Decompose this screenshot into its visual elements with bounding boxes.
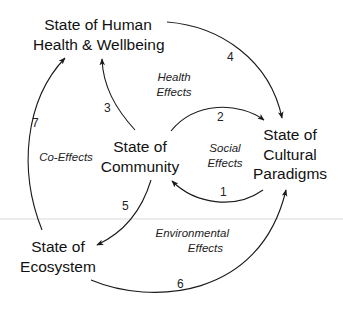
label-health-effects: Health Effects xyxy=(150,70,198,100)
arrow-3 xyxy=(102,59,135,130)
causal-loop-diagram: State of Human Health & Wellbeing State … xyxy=(0,0,343,313)
edge-number-5: 5 xyxy=(122,199,129,213)
edge-number-7: 7 xyxy=(32,116,39,130)
edge-number-6: 6 xyxy=(177,277,184,291)
label-social-effects: Social Effects xyxy=(202,141,248,171)
label-co-effects: Co-Effects xyxy=(36,150,96,165)
edge-number-2: 2 xyxy=(217,110,224,124)
arrow-7 xyxy=(28,58,65,230)
node-human-health: State of Human Health & Wellbeing xyxy=(33,15,163,54)
node-community: State of Community xyxy=(100,137,180,176)
node-ecosystem: State of Ecosystem xyxy=(18,237,98,276)
edge-number-4: 4 xyxy=(227,50,234,64)
label-environmental-effects: Environmental Effects xyxy=(143,226,229,256)
edge-number-1: 1 xyxy=(220,185,227,199)
edge-number-3: 3 xyxy=(104,101,111,115)
node-cultural-paradigms: State of Cultural Paradigms xyxy=(250,125,330,184)
arrow-1 xyxy=(172,181,263,202)
